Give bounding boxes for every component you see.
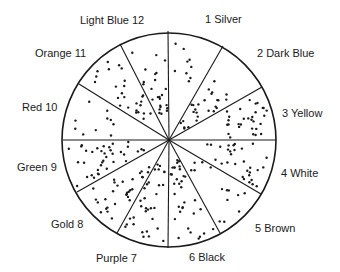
pattern-dot <box>251 127 253 129</box>
pattern-dot <box>227 144 229 146</box>
pattern-dot <box>173 183 175 185</box>
pattern-dot <box>166 110 168 112</box>
pattern-dot <box>96 147 98 149</box>
segment-label-brown: 5 Brown <box>255 222 295 234</box>
segment-divider <box>120 44 169 140</box>
pattern-dot <box>234 163 236 165</box>
pattern-dot <box>213 80 215 82</box>
pattern-dot <box>146 183 148 185</box>
pattern-dot <box>262 166 264 168</box>
pattern-dot <box>131 188 133 190</box>
pattern-dot <box>105 156 107 158</box>
pattern-dot <box>101 161 103 163</box>
pattern-dot <box>216 99 218 101</box>
pattern-dot <box>210 144 212 146</box>
pattern-dot <box>154 79 156 81</box>
pattern-dot <box>240 123 242 125</box>
pattern-dot <box>140 205 142 207</box>
pattern-dot <box>199 236 201 238</box>
pattern-dot <box>82 133 84 135</box>
pattern-dot <box>227 148 229 150</box>
pattern-dot <box>260 133 262 135</box>
pattern-dot <box>232 144 234 146</box>
pattern-dot <box>140 148 142 150</box>
pattern-dot <box>193 212 195 214</box>
pattern-dot <box>106 210 108 212</box>
pattern-dot <box>116 184 118 186</box>
pattern-dot <box>155 54 157 56</box>
pattern-dot <box>139 200 141 202</box>
pattern-dot <box>265 157 267 159</box>
pattern-dot <box>153 207 155 209</box>
pattern-dot <box>97 172 99 174</box>
pattern-dot <box>100 150 102 152</box>
pattern-dot <box>219 146 221 148</box>
pattern-dot <box>120 151 122 153</box>
pattern-dot <box>266 109 268 111</box>
pattern-dot <box>100 164 102 166</box>
pattern-dot <box>129 199 131 201</box>
segment-label-light-blue: Light Blue 12 <box>80 14 144 26</box>
pattern-dot <box>118 64 120 66</box>
pattern-dot <box>160 113 162 115</box>
pattern-dot <box>254 111 256 113</box>
pattern-dot <box>132 223 134 225</box>
pattern-dot <box>257 169 259 171</box>
pattern-dot <box>243 178 245 180</box>
pattern-dot <box>241 147 243 149</box>
pattern-dot <box>173 166 175 168</box>
segment-divider <box>79 84 169 140</box>
pattern-dot <box>121 67 123 69</box>
pattern-dot <box>148 235 150 237</box>
pattern-dot <box>188 59 190 61</box>
pattern-dot <box>139 104 141 106</box>
pattern-dot <box>195 119 197 121</box>
pattern-dot <box>123 85 125 87</box>
segment-divider <box>168 140 169 248</box>
pattern-dot <box>112 190 114 192</box>
segment-label-orange: Orange 11 <box>35 47 86 59</box>
pattern-dot <box>194 108 196 110</box>
segment-label-red: Red 10 <box>22 101 57 113</box>
pattern-dot <box>252 120 254 122</box>
pattern-dot <box>142 176 144 178</box>
pattern-dot <box>242 176 244 178</box>
pattern-dot <box>254 134 256 136</box>
pattern-dot <box>158 168 160 170</box>
pattern-dot <box>88 101 90 103</box>
pattern-dot <box>127 146 129 148</box>
pattern-dot <box>97 169 99 171</box>
pattern-dot <box>180 186 182 188</box>
pattern-dot <box>162 240 164 242</box>
pattern-dot <box>203 99 205 101</box>
pattern-dot <box>211 91 213 93</box>
pattern-dot <box>92 187 94 189</box>
pattern-dot <box>142 236 144 238</box>
pattern-dot <box>255 128 257 130</box>
pattern-dot <box>192 104 194 106</box>
pattern-dot <box>159 165 161 167</box>
pattern-dot <box>143 81 145 83</box>
pattern-dot <box>156 163 158 165</box>
segment-label-white: 4 White <box>281 167 318 179</box>
pattern-dot <box>91 151 93 153</box>
pattern-dot <box>229 150 231 152</box>
pattern-dot <box>164 59 166 61</box>
pattern-dot <box>97 201 99 203</box>
pattern-dot <box>226 110 228 112</box>
pattern-dot <box>112 143 114 145</box>
pattern-dot <box>108 146 110 148</box>
pattern-dot <box>129 189 131 191</box>
pattern-dot <box>122 181 124 183</box>
pattern-dot <box>110 119 112 121</box>
pattern-dot <box>193 162 195 164</box>
pattern-dot <box>95 198 97 200</box>
pattern-dot <box>95 129 97 131</box>
pattern-dot <box>248 174 250 176</box>
pattern-dot <box>131 178 133 180</box>
pattern-dot <box>159 105 161 107</box>
pattern-dot <box>145 210 147 212</box>
pattern-dot <box>243 160 245 162</box>
segment-divider <box>169 140 261 194</box>
pattern-dot <box>105 208 107 210</box>
